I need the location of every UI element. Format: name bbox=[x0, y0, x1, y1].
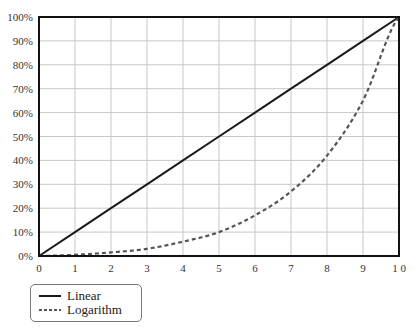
svg-text:5: 5 bbox=[216, 262, 222, 274]
svg-text:0%: 0% bbox=[18, 250, 33, 262]
svg-text:60%: 60% bbox=[13, 107, 33, 119]
solid-line-icon bbox=[39, 293, 61, 299]
svg-text:30%: 30% bbox=[13, 178, 33, 190]
svg-text:100%: 100% bbox=[7, 11, 33, 23]
svg-text:10%: 10% bbox=[13, 226, 33, 238]
svg-text:80%: 80% bbox=[13, 59, 33, 71]
svg-text:6: 6 bbox=[252, 262, 258, 274]
legend-label: Logarithm bbox=[67, 302, 122, 318]
legend-item-linear: Linear bbox=[39, 289, 101, 303]
svg-text:50%: 50% bbox=[13, 131, 33, 143]
y-axis-tick-labels: 0%10%20%30%40%50%60%70%80%90%100% bbox=[7, 11, 33, 262]
svg-text:0: 0 bbox=[36, 262, 42, 274]
svg-text:70%: 70% bbox=[13, 83, 33, 95]
svg-text:7: 7 bbox=[288, 262, 294, 274]
svg-text:4: 4 bbox=[180, 262, 186, 274]
svg-text:9: 9 bbox=[360, 262, 366, 274]
svg-text:1: 1 bbox=[72, 262, 78, 274]
line-chart: 0%10%20%30%40%50%60%70%80%90%100% 012345… bbox=[0, 0, 416, 332]
x-axis-tick-labels: 01234567891 0 bbox=[36, 262, 406, 274]
svg-text:3: 3 bbox=[144, 262, 150, 274]
dashed-line-icon bbox=[39, 307, 61, 313]
svg-text:1 0: 1 0 bbox=[392, 262, 406, 274]
svg-text:20%: 20% bbox=[13, 202, 33, 214]
svg-text:90%: 90% bbox=[13, 35, 33, 47]
svg-text:2: 2 bbox=[108, 262, 114, 274]
legend: Linear Logarithm bbox=[30, 284, 142, 322]
svg-text:40%: 40% bbox=[13, 154, 33, 166]
legend-item-logarithm: Logarithm bbox=[39, 303, 122, 317]
svg-text:8: 8 bbox=[324, 262, 330, 274]
